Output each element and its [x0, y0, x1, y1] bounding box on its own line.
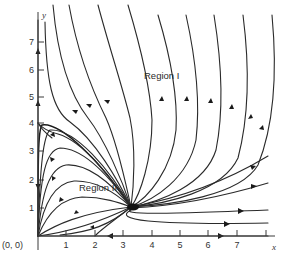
arrow-icon: [238, 208, 244, 214]
stable-node-marker: [127, 204, 139, 211]
origin-label: (0, 0): [2, 240, 23, 250]
arrow-icon: [259, 125, 264, 130]
arrow-icon: [52, 176, 56, 181]
trajectory: [131, 15, 247, 207]
trajectory: [45, 22, 131, 207]
x-tick-label: 7: [234, 240, 239, 250]
region-ii-label: Region II: [79, 182, 117, 193]
arrow-icon: [159, 96, 164, 101]
arrow-icon: [184, 96, 189, 101]
arrow-icon: [229, 104, 234, 109]
trajectory: [38, 207, 131, 236]
y-tick-label: 1: [29, 203, 34, 213]
x-tick-labels: 1 2 3 4 5 6 7 x: [63, 240, 276, 252]
trajectory: [131, 15, 274, 207]
x-tick-label: 6: [205, 240, 210, 250]
arrow-icon: [59, 197, 64, 202]
x-axis-label: x: [271, 242, 276, 252]
x-tick-label: 4: [149, 240, 154, 250]
y-axis-trajectories: [38, 20, 131, 236]
trajectory: [53, 5, 131, 207]
arrow-icon: [224, 221, 230, 227]
y-tick-label: 3: [29, 146, 34, 156]
y-tick-label: 5: [29, 92, 34, 102]
arrow-icon: [248, 114, 253, 119]
trajectory: [128, 5, 152, 207]
region-i-trajectories: [45, 5, 274, 207]
y-tick-label: 2: [29, 175, 34, 185]
trajectory: [38, 197, 131, 236]
x-tick-label: 5: [177, 240, 182, 250]
trajectory: [38, 207, 131, 236]
arrow-icon: [104, 100, 110, 104]
trajectory: [131, 15, 198, 207]
trajectory: [129, 209, 268, 213]
arrow-icon: [208, 98, 213, 103]
y-tick-label: 6: [29, 65, 34, 75]
y-tick-label: 4: [29, 118, 34, 128]
phase-portrait-svg: 1 2 3 4 5 6 7 x 1 2 3 4 5 6 7 y (0, 0) R…: [0, 0, 295, 265]
trajectory: [98, 5, 134, 207]
y-axis-label: y: [41, 10, 46, 20]
arrow-icon: [90, 225, 94, 229]
axes: [38, 12, 275, 250]
phase-portrait-figure: 1 2 3 4 5 6 7 x 1 2 3 4 5 6 7 y (0, 0) R…: [0, 0, 295, 265]
right-trajectories: [38, 156, 268, 236]
arrow-icon: [74, 210, 79, 214]
region-i-label: Region I: [144, 70, 179, 81]
arrow-icon: [72, 110, 78, 114]
trajectory: [131, 15, 176, 207]
arrow-icon: [86, 104, 92, 108]
y-tick-label: 7: [29, 37, 34, 47]
x-tick-label: 2: [92, 240, 97, 250]
arrow-icon: [50, 157, 55, 162]
x-tick-label: 1: [63, 240, 68, 250]
x-tick-label: 3: [120, 240, 125, 250]
